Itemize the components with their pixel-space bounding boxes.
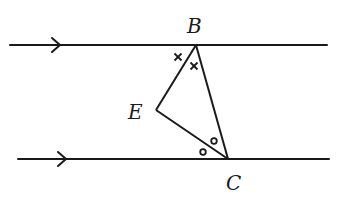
circle-mark-icon xyxy=(211,138,217,144)
circle-mark-icon xyxy=(200,149,206,155)
label-c: C xyxy=(226,171,241,195)
geometry-diagram: B E C xyxy=(0,0,337,211)
point-labels: B E C xyxy=(127,14,241,195)
label-e: E xyxy=(127,100,143,124)
label-b: B xyxy=(186,14,202,38)
parallel-lines xyxy=(10,38,329,166)
